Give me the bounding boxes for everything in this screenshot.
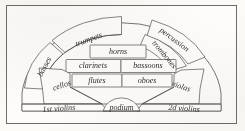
seating-chart-canvas: basses trumpets percussion trombones hor…: [6, 5, 237, 124]
label-horns: horns: [109, 47, 127, 56]
label-oboes: oboes: [138, 76, 157, 85]
label-bassoons: bassoons: [133, 61, 162, 70]
orchestra-seating-diagram: basses trumpets percussion trombones hor…: [0, 0, 245, 131]
label-clarinets: clarinets: [79, 61, 107, 70]
label-flutes: flutes: [88, 76, 105, 85]
label-podium: podium: [109, 103, 134, 112]
label-first-violins: 1st violins: [42, 103, 75, 114]
label-second-violins: 2d violins: [168, 103, 200, 114]
